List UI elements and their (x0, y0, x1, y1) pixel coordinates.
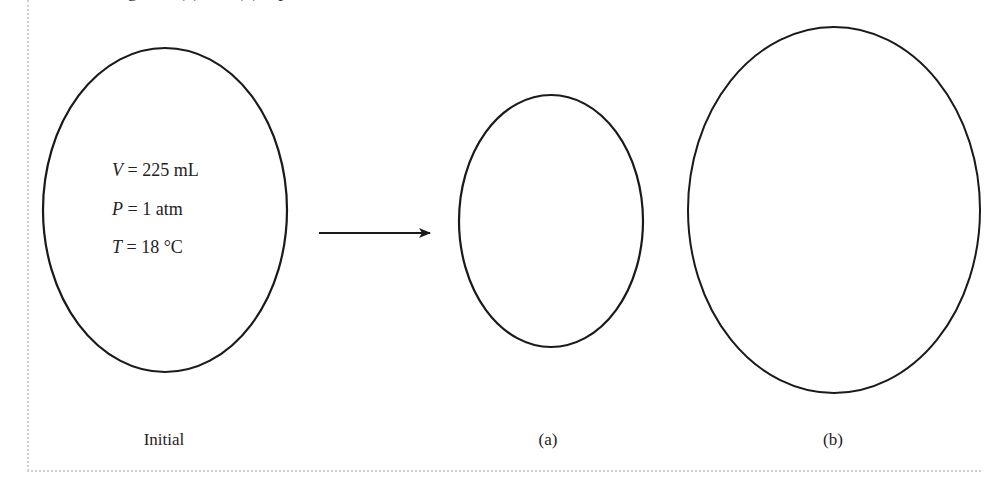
pressure-condition: P = 1 atm (112, 199, 199, 238)
option-b-label: (b) (773, 430, 893, 450)
volume-condition: V = 225 mL (112, 160, 199, 199)
balloon-b (688, 27, 980, 393)
temperature-condition: T = 18 °C (112, 237, 199, 276)
initial-conditions: V = 225 mL P = 1 atm T = 18 °C (112, 160, 199, 276)
initial-label: Initial (104, 430, 224, 450)
option-a-label: (a) (488, 430, 608, 450)
balloon-a (459, 95, 643, 347)
